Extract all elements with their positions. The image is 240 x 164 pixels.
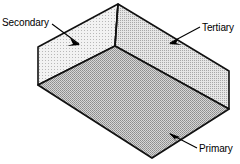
leader-tertiary	[169, 27, 200, 45]
label-secondary: Secondary	[2, 17, 49, 28]
leader-line-tertiary	[170, 27, 200, 43]
label-primary: Primary	[199, 143, 233, 154]
diagram-canvas: Secondary Tertiary Primary	[0, 0, 240, 164]
label-tertiary: Tertiary	[202, 22, 234, 33]
